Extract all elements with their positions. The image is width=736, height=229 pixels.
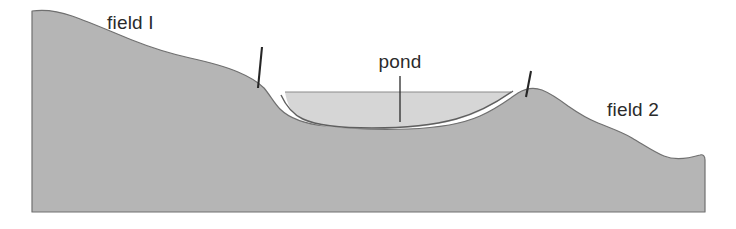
boundary-post-left-icon: [258, 47, 262, 88]
label-field-2: field 2: [607, 99, 659, 120]
label-field-1: field I: [107, 12, 154, 33]
pond-cross-section-figure: field I pond field 2: [0, 0, 736, 229]
label-pond: pond: [378, 51, 421, 72]
diagram-canvas: field I pond field 2: [0, 0, 736, 229]
